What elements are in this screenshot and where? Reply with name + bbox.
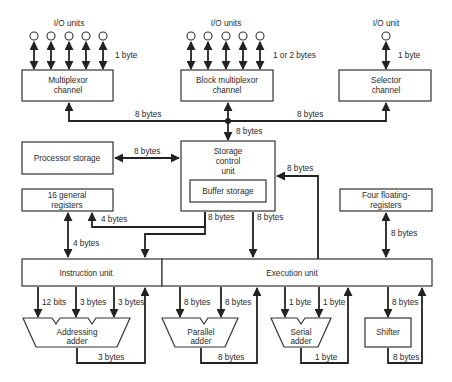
execution-unit: Execution unit [162, 259, 432, 286]
block-multiplexor-io-units: I/O units 1 or 2 bytes [187, 19, 316, 69]
addr-in3-width: 3 bytes [118, 298, 144, 307]
io-unit-icon [82, 32, 90, 40]
proc-storage-width: 8 bytes [134, 147, 160, 156]
svg-text:Buffer storage: Buffer storage [202, 187, 254, 196]
bus-to-scu-width: 8 bytes [236, 127, 262, 136]
svg-text:adder: adder [67, 337, 88, 346]
selector-io-label: I/O unit [373, 19, 400, 28]
processor-storage: Processor storage 8 bytes [22, 142, 179, 174]
selector-bus-width: 8 bytes [297, 110, 323, 119]
addr-in1-width: 12 bits [42, 298, 66, 307]
selector-io-width: 1 byte [398, 51, 421, 60]
cpu-block-diagram: I/O units 1 byte I/O units 1 or 2 bytes [0, 0, 452, 382]
svg-text:registers: registers [51, 201, 82, 210]
svg-text:control: control [216, 157, 241, 166]
selector-channel: Selector channel [339, 70, 431, 101]
block-io-width: 1 or 2 bytes [273, 51, 316, 60]
shifter: Shifter 8 bytes 8 bytes [365, 287, 422, 363]
svg-text:16 general: 16 general [48, 191, 87, 200]
io-unit-icon [30, 32, 38, 40]
parallel-adder: Parallel adder 8 bytes 8 bytes 8 bytes [162, 287, 257, 363]
exec-to-scu-width: 8 bytes [287, 164, 313, 173]
buffer-storage: Buffer storage [190, 180, 266, 202]
svg-text:Instruction unit: Instruction unit [59, 269, 113, 278]
io-unit-icon [382, 32, 390, 40]
io-unit-icon [47, 32, 55, 40]
instruction-unit: Instruction unit [22, 259, 162, 286]
regs-feedback-width: 4 bytes [101, 215, 127, 224]
ser-out-width: 1 byte [315, 353, 338, 362]
selector-io-unit: I/O unit 1 byte [373, 19, 421, 69]
shift-in-width: 8 bytes [392, 298, 418, 307]
mux-bus-width: 8 bytes [135, 110, 161, 119]
svg-text:adder: adder [291, 337, 312, 346]
io-unit-icon [222, 32, 230, 40]
scu-to-eu-width: 8 bytes [257, 213, 283, 222]
block-multiplexor-channel: Block multiplexor channel [181, 70, 273, 101]
exec-to-scu-path: 8 bytes [277, 164, 318, 259]
svg-text:channel: channel [372, 86, 401, 95]
block-io-label: I/O units [211, 19, 242, 28]
svg-text:unit: unit [221, 167, 235, 176]
multiplexor-io-width: 1 byte [115, 51, 138, 60]
io-unit-icon [204, 32, 212, 40]
storage-control-unit: Storage control unit Buffer storage [181, 141, 275, 211]
svg-text:channel: channel [213, 86, 242, 95]
scu-to-iu-width: 8 bytes [208, 213, 234, 222]
multiplexor-io-label: I/O units [54, 19, 85, 28]
svg-text:Addressing: Addressing [57, 328, 98, 337]
svg-text:channel: channel [54, 86, 83, 95]
multiplexor-channel: Multiplexor channel [22, 70, 113, 101]
svg-text:Serial: Serial [291, 328, 312, 337]
io-unit-icon [65, 32, 73, 40]
svg-text:Block multiplexor: Block multiplexor [196, 76, 258, 85]
addr-in2-width: 3 bytes [80, 298, 106, 307]
svg-text:Parallel: Parallel [187, 328, 214, 337]
general-registers: 16 general registers 4 bytes 4 bytes [22, 189, 205, 257]
ser-in2-width: 1 byte [323, 298, 346, 307]
svg-text:Shifter: Shifter [376, 328, 400, 337]
float-regs-width: 8 bytes [391, 229, 417, 238]
serial-adder: Serial adder 1 byte 1 byte 1 byte [271, 287, 348, 363]
floating-registers: Four floating- registers 8 bytes [340, 189, 432, 257]
svg-text:Selector: Selector [371, 76, 401, 85]
svg-text:Multiplexor: Multiplexor [48, 76, 88, 85]
multiplexor-io-units: I/O units 1 byte [30, 19, 138, 69]
regs-iu-width: 4 bytes [73, 239, 99, 248]
svg-text:Execution unit: Execution unit [266, 269, 318, 278]
scu-outputs: 8 bytes 8 bytes [145, 212, 283, 257]
par-in2-width: 8 bytes [225, 298, 251, 307]
io-unit-icon [187, 32, 195, 40]
io-unit-icon [239, 32, 247, 40]
io-unit-icon [99, 32, 107, 40]
shift-out-width: 8 bytes [393, 353, 419, 362]
addr-out-width: 3 bytes [98, 353, 124, 362]
io-unit-icons [30, 32, 107, 69]
svg-text:registers: registers [370, 201, 401, 210]
ser-in1-width: 1 byte [289, 298, 312, 307]
par-out-width: 8 bytes [218, 353, 244, 362]
svg-text:adder: adder [191, 337, 212, 346]
channel-bus: 8 bytes 8 bytes 8 bytes [69, 103, 386, 140]
par-in1-width: 8 bytes [184, 298, 210, 307]
svg-text:Four floating-: Four floating- [362, 191, 411, 200]
svg-text:Processor storage: Processor storage [34, 154, 101, 163]
svg-text:Storage: Storage [214, 147, 243, 156]
addressing-adder: Addressing adder 12 bits 3 bytes 3 bytes… [23, 287, 145, 363]
io-unit-icon [256, 32, 264, 40]
